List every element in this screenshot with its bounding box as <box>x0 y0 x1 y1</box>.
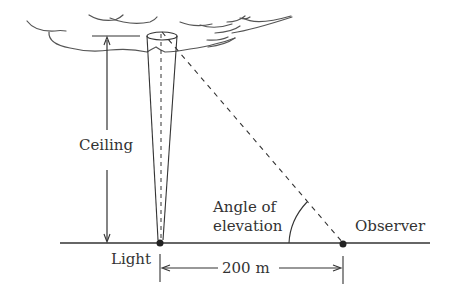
angle-label-line1: Angle of <box>212 198 278 216</box>
light-label: Light <box>111 250 151 268</box>
light-point <box>157 240 164 247</box>
ceiling-diagram: Ceiling Angle of elevation Observer Ligh… <box>0 0 449 303</box>
angle-label-line2: elevation <box>213 217 283 235</box>
observer-label: Observer <box>355 217 426 235</box>
distance-label: 200 m <box>222 259 270 277</box>
ceiling-label: Ceiling <box>79 136 133 154</box>
light-beam <box>147 32 177 240</box>
cloud-icon <box>27 15 292 52</box>
angle-arc <box>289 202 307 243</box>
observer-point <box>340 241 347 248</box>
